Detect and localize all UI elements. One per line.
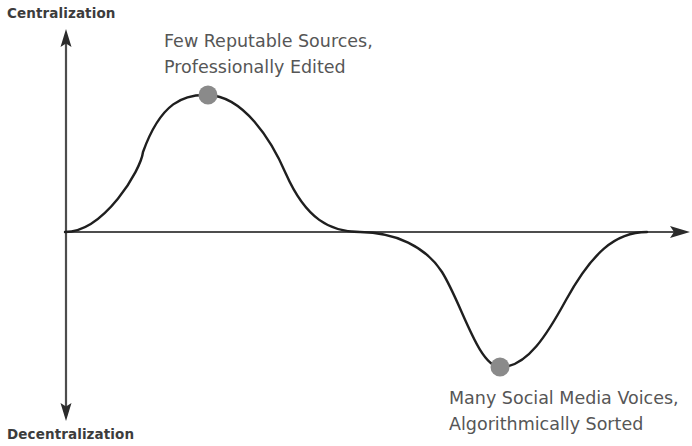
peak-annotation-line-1: Few Reputable Sources, xyxy=(164,29,373,55)
peak-annotation-line-2: Professionally Edited xyxy=(164,55,373,81)
peak-marker-dot xyxy=(199,86,218,105)
trough-marker-dot xyxy=(491,358,510,377)
peak-annotation: Few Reputable Sources, Professionally Ed… xyxy=(164,29,373,80)
trough-annotation-line-2: Algorithmically Sorted xyxy=(449,412,679,438)
y-axis-top-label: Centralization xyxy=(7,7,115,21)
trough-annotation: Many Social Media Voices, Algorithmicall… xyxy=(449,386,679,437)
y-axis-bottom-label: Decentralization xyxy=(7,428,134,442)
diagram-canvas: Centralization Decentralization Few Repu… xyxy=(0,0,692,446)
trough-annotation-line-1: Many Social Media Voices, xyxy=(449,386,679,412)
